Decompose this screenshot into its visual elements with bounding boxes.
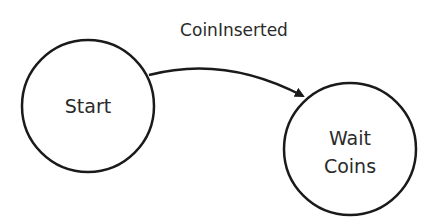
state-diagram: Start Wait Coins CoinInserted: [0, 0, 436, 222]
state-wait-coins-circle: [284, 83, 416, 215]
diagram-svg: Start Wait Coins CoinInserted: [0, 0, 436, 222]
state-wait-coins[interactable]: Wait Coins: [284, 83, 416, 215]
state-wait-coins-label-line2: Coins: [324, 155, 376, 177]
state-start[interactable]: Start: [22, 40, 154, 172]
state-wait-coins-label-line1: Wait: [329, 127, 371, 149]
transition-coin-inserted[interactable]: CoinInserted: [149, 20, 303, 96]
state-start-label: Start: [65, 95, 111, 117]
transition-arrow: [149, 68, 303, 96]
transition-label: CoinInserted: [180, 20, 288, 40]
